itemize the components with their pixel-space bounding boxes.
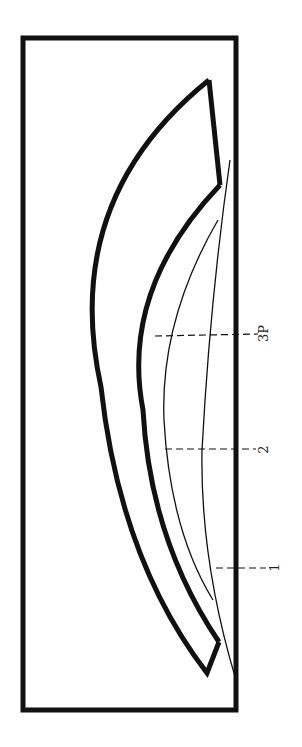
- label-2: 2: [256, 445, 271, 453]
- thin-curve: [164, 220, 218, 600]
- outer-band-curve: [92, 80, 219, 673]
- thin-line: [202, 160, 236, 680]
- dashed-line-3p: [155, 334, 258, 336]
- frame-border: [23, 38, 236, 710]
- label-3p: 3P: [256, 325, 271, 342]
- label-1: 1: [267, 563, 282, 571]
- outer-band-top-edge: [209, 80, 220, 185]
- pattern-diagram: [0, 0, 302, 747]
